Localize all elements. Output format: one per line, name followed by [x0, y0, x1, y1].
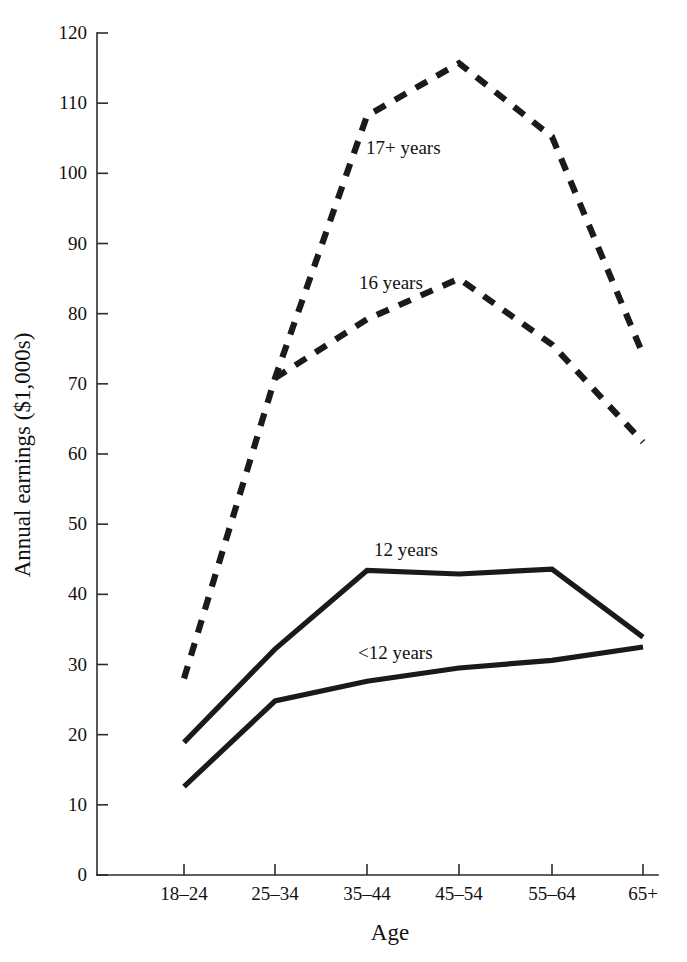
- y-axis-ticks: [97, 33, 108, 875]
- series-lines-group: [184, 63, 643, 786]
- series-annotation--12-years: <12 years: [358, 642, 433, 663]
- y-axis-tick-label: 80: [68, 303, 87, 324]
- x-axis-tick-labels: 18–2425–3435–4445–5455–6465+: [160, 883, 658, 904]
- x-axis-tick-label: 35–44: [343, 883, 391, 904]
- y-axis-title: Annual earnings ($1,000s): [10, 333, 35, 578]
- chart-container: 0102030405060708090100110120 18–2425–343…: [0, 0, 687, 962]
- y-axis-tick-label: 20: [68, 724, 87, 745]
- y-axis-tick-label: 60: [68, 443, 87, 464]
- y-axis-tick-label: 30: [68, 654, 87, 675]
- x-axis-tick-label: 18–24: [160, 883, 208, 904]
- y-axis-tick-label: 50: [68, 513, 87, 534]
- y-axis-tick-label: 70: [68, 373, 87, 394]
- x-axis-tick-label: 65+: [628, 883, 658, 904]
- y-axis-tick-label: 0: [78, 864, 88, 885]
- y-axis-tick-label: 40: [68, 583, 87, 604]
- series-line-16-years: [275, 279, 643, 443]
- y-axis-tick-label: 100: [59, 162, 88, 183]
- y-axis-tick-label: 90: [68, 233, 87, 254]
- series-annotation-16-years: 16 years: [359, 272, 423, 293]
- series-line--12-years: [184, 647, 643, 787]
- x-axis-ticks: [184, 864, 643, 875]
- y-axis-tick-label: 110: [59, 92, 87, 113]
- y-axis-tick-label: 10: [68, 794, 87, 815]
- earnings-by-age-line-chart: 0102030405060708090100110120 18–2425–343…: [0, 0, 687, 962]
- x-axis-tick-label: 55–64: [528, 883, 576, 904]
- x-axis-title: Age: [371, 920, 409, 945]
- series-annotation-labels: 17+ years16 years12 years<12 years: [358, 137, 441, 663]
- x-axis-tick-label: 25–34: [251, 883, 299, 904]
- x-axis-tick-label: 45–54: [435, 883, 483, 904]
- y-axis-tick-labels: 0102030405060708090100110120: [59, 22, 88, 885]
- series-annotation-12-years: 12 years: [374, 539, 438, 560]
- y-axis-tick-label: 120: [59, 22, 88, 43]
- series-annotation-17-years: 17+ years: [366, 137, 441, 158]
